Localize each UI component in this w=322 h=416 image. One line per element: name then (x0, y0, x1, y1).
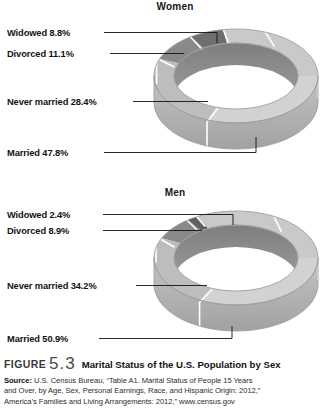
callout-label-women-widowed: Widowed 8.8% (7, 28, 70, 38)
figure-caption: FIGURE 5.3 Marital Status of the U.S. Po… (4, 353, 320, 407)
caption-figure-word: FIGURE (4, 358, 46, 370)
callout-label-men-divorced: Divorced 8.9% (7, 226, 69, 236)
callout-label-women-never-married: Never married 28.4% (7, 97, 97, 107)
callout-label-men-never-married: Never married 34.2% (7, 281, 97, 291)
source-note: Source: U.S. Census Bureau, “Table A1. M… (4, 376, 320, 407)
caption-title: Marital Status of the U.S. Population by… (82, 359, 281, 370)
callout-label-women-divorced: Divorced 11.1% (7, 49, 74, 59)
caption-heading-row: FIGURE 5.3 Marital Status of the U.S. Po… (4, 353, 320, 373)
source-line-1: U.S. Census Bureau, “Table A1. Marital S… (34, 376, 252, 385)
source-line-2: and Over, by Age, Sex, Personal Earnings… (4, 386, 320, 396)
callout-label-women-married: Married 47.8% (7, 148, 68, 158)
panel-title-men: Men (140, 187, 210, 198)
callout-label-men-married: Married 50.9% (7, 334, 68, 344)
source-label: Source: (4, 376, 32, 385)
source-line-3: America’s Families and Living Arrangemen… (4, 397, 320, 407)
caption-figure-number: 5.3 (49, 354, 76, 374)
panel-title-women: Women (140, 1, 210, 12)
callout-label-men-widowed: Widowed 2.4% (7, 210, 70, 220)
donut-chart-women (150, 14, 322, 174)
figure-container: Women (0, 0, 322, 416)
donut-chart-men (150, 198, 322, 353)
